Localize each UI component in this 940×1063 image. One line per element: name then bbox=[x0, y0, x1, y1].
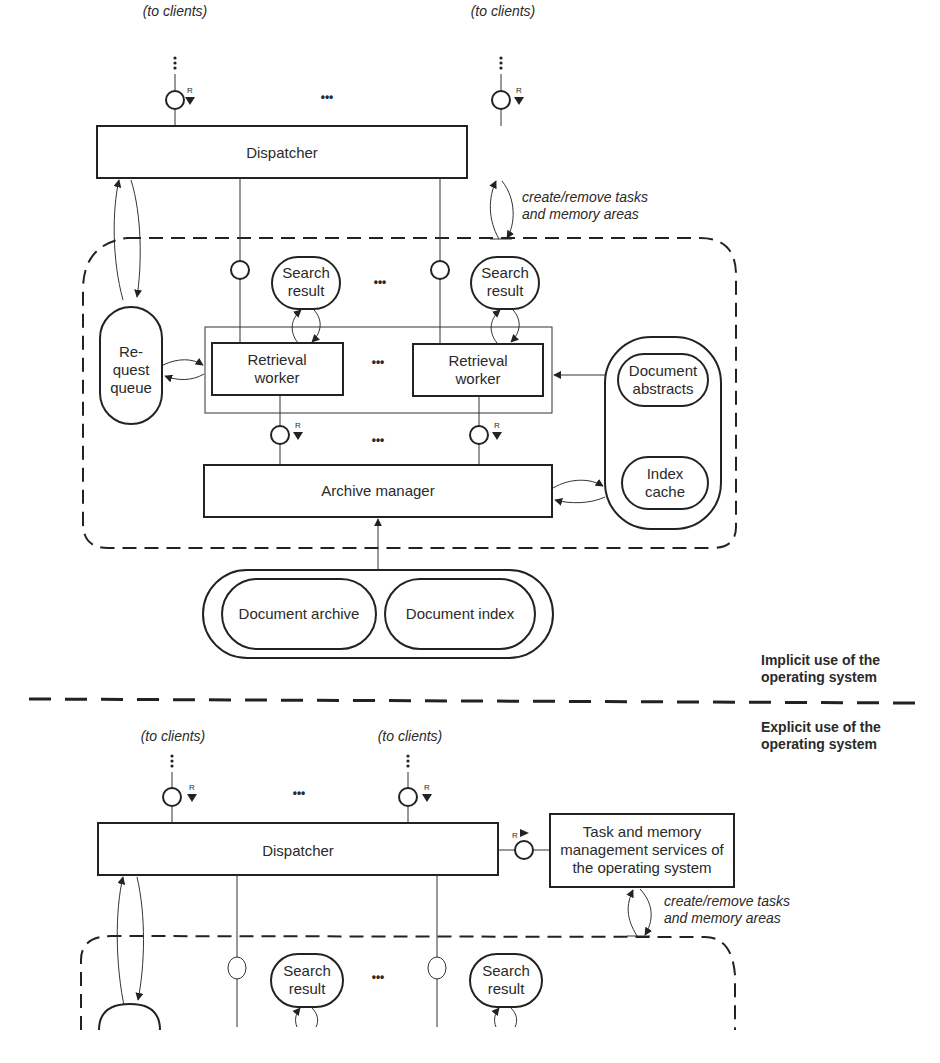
client-port-left: (to clients) R bbox=[143, 3, 208, 126]
port-r-label: R bbox=[494, 421, 500, 430]
port-r-label: R bbox=[189, 783, 195, 792]
search-result-label: Search bbox=[481, 264, 529, 281]
cache-container: Document abstracts Index cache bbox=[605, 337, 721, 529]
port-r-label: R bbox=[295, 421, 301, 430]
triangle-down-icon bbox=[187, 794, 197, 802]
search-result-label: result bbox=[488, 980, 526, 997]
port-circle-icon bbox=[163, 788, 181, 806]
implicit-label-2: operating system bbox=[761, 669, 877, 685]
triangle-down-icon bbox=[422, 794, 432, 802]
section-separator bbox=[29, 699, 918, 703]
archive-manager-label: Archive manager bbox=[321, 482, 434, 499]
ellipsis: ••• bbox=[372, 433, 385, 447]
search-result-label: Search bbox=[282, 264, 330, 281]
vertical-dots-icon bbox=[406, 754, 409, 767]
search-result-label: result bbox=[487, 282, 525, 299]
explicit-label-1: Explicit use of the bbox=[761, 719, 881, 735]
client-port-right: (to clients) R bbox=[471, 3, 536, 126]
ellipsis: ••• bbox=[321, 90, 334, 104]
to-clients-label: (to clients) bbox=[141, 728, 206, 744]
implicit-section: (to clients) R ••• (to clients) R D bbox=[83, 3, 736, 658]
triangle-down-icon bbox=[185, 97, 195, 105]
ellipsis: ••• bbox=[374, 275, 387, 289]
explicit-section: (to clients) R ••• (to clients) R Dispat bbox=[81, 728, 790, 1030]
ellipsis: ••• bbox=[293, 786, 306, 800]
request-queue-partial bbox=[99, 1004, 160, 1030]
dispatcher-label: Dispatcher bbox=[246, 144, 318, 161]
port-r-label: R bbox=[516, 86, 522, 95]
vertical-dots-icon bbox=[170, 754, 173, 767]
task-boundary-explicit bbox=[81, 936, 735, 1030]
client-port-left: (to clients) R bbox=[141, 728, 206, 822]
search-result-label: Search bbox=[283, 962, 331, 979]
explicit-label-2: operating system bbox=[761, 736, 877, 752]
port-r-label: R bbox=[512, 831, 518, 840]
request-queue-label: Re- bbox=[119, 343, 143, 360]
retrieval-worker-label: Retrieval bbox=[247, 351, 306, 368]
document-storage: Document archive Document index bbox=[203, 570, 553, 658]
request-queue-label: queue bbox=[110, 379, 152, 396]
search-result-1-explicit: Search result bbox=[271, 954, 343, 1007]
port-circle-icon bbox=[492, 91, 510, 109]
request-queue-label: quest bbox=[113, 361, 151, 378]
to-clients-label: (to clients) bbox=[378, 728, 443, 744]
port-circle-icon bbox=[271, 426, 289, 444]
triangle-down-icon bbox=[492, 432, 502, 440]
retrieval-worker-1: Retrieval worker bbox=[212, 343, 343, 395]
create-remove-label-1: create/remove tasks bbox=[664, 893, 790, 909]
triangle-right-icon bbox=[520, 829, 529, 837]
task-memory-label: management services of bbox=[560, 841, 724, 858]
port-circle-icon bbox=[428, 957, 446, 979]
index-cache-label: cache bbox=[645, 483, 685, 500]
create-remove-label-1: create/remove tasks bbox=[522, 189, 648, 205]
search-result-2: Search result bbox=[471, 257, 539, 309]
task-memory-services-box: Task and memory management services of t… bbox=[550, 814, 734, 887]
implicit-label-1: Implicit use of the bbox=[761, 652, 880, 668]
search-result-label: result bbox=[288, 282, 326, 299]
port-circle-icon bbox=[431, 261, 449, 279]
to-clients-label: (to clients) bbox=[471, 3, 536, 19]
retrieval-worker-label: worker bbox=[454, 370, 500, 387]
document-abstracts-label: Document bbox=[629, 362, 698, 379]
architecture-diagram: (to clients) R ••• (to clients) R D bbox=[0, 0, 940, 1063]
ellipsis: ••• bbox=[372, 355, 385, 369]
index-cache-label: Index bbox=[647, 465, 684, 482]
to-clients-label: (to clients) bbox=[143, 3, 208, 19]
port-circle-icon bbox=[166, 91, 184, 109]
task-memory-label: Task and memory bbox=[583, 823, 702, 840]
ellipsis: ••• bbox=[372, 970, 385, 984]
port-r-label: R bbox=[187, 86, 193, 95]
search-result-label: Search bbox=[482, 962, 530, 979]
dispatcher-label: Dispatcher bbox=[262, 842, 334, 859]
port-r-label: R bbox=[424, 783, 430, 792]
retrieval-worker-2: Retrieval worker bbox=[413, 344, 543, 396]
client-port-right: (to clients) R bbox=[378, 728, 443, 822]
create-remove-label-2: and memory areas bbox=[522, 206, 639, 222]
create-remove-label-2: and memory areas bbox=[664, 910, 781, 926]
port-circle-icon bbox=[515, 841, 533, 859]
port-circle-icon bbox=[399, 788, 417, 806]
vertical-dots-icon bbox=[499, 56, 502, 69]
triangle-down-icon bbox=[293, 432, 303, 440]
port-circle-icon bbox=[470, 426, 488, 444]
document-archive-label: Document archive bbox=[239, 605, 360, 622]
vertical-dots-icon bbox=[173, 56, 176, 69]
triangle-down-icon bbox=[514, 97, 524, 105]
archive-manager-box: Archive manager bbox=[204, 465, 552, 517]
search-result-2-explicit: Search result bbox=[470, 954, 542, 1007]
retrieval-worker-label: Retrieval bbox=[448, 352, 507, 369]
port-circle-icon bbox=[228, 957, 246, 979]
dispatcher-box: Dispatcher bbox=[97, 126, 467, 178]
retrieval-worker-label: worker bbox=[253, 369, 299, 386]
request-queue: Re- quest queue bbox=[100, 307, 162, 424]
document-abstracts-label: abstracts bbox=[633, 380, 694, 397]
task-memory-label: the operating system bbox=[572, 859, 711, 876]
dispatcher-box-explicit: Dispatcher bbox=[98, 823, 498, 875]
search-result-1: Search result bbox=[272, 257, 340, 309]
search-result-label: result bbox=[289, 980, 327, 997]
port-circle-icon bbox=[231, 261, 249, 279]
document-index-label: Document index bbox=[406, 605, 515, 622]
